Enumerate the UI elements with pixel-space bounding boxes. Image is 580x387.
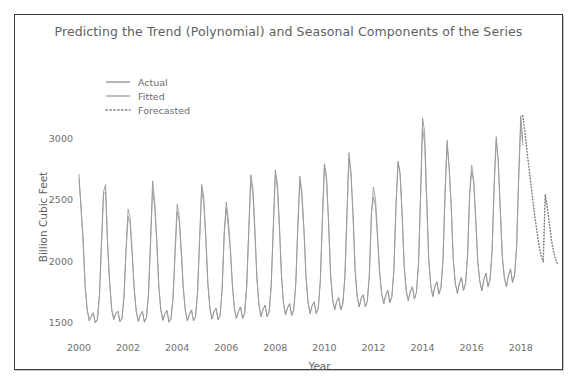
x-tick-label: 2002 [116, 342, 140, 353]
x-axis-ticks: 2000200220042006200820102012201420162018 [79, 342, 560, 358]
legend-line-fitted-icon [105, 91, 131, 101]
x-tick-label: 2010 [312, 342, 336, 353]
x-tick-label: 2012 [361, 342, 385, 353]
series-line-actual [79, 116, 523, 323]
series-line-forecasted [523, 116, 558, 264]
x-tick-label: 2016 [460, 342, 484, 353]
x-tick-label: 2008 [263, 342, 287, 353]
x-axis-label: Year [79, 360, 560, 372]
series-plot [79, 101, 560, 337]
x-tick-label: 2018 [509, 342, 533, 353]
x-tick-label: 2006 [214, 342, 238, 353]
chart-title: Predicting the Trend (Polynomial) and Se… [15, 24, 562, 39]
y-tick-label: 2000 [49, 255, 73, 266]
x-tick-label: 2014 [410, 342, 434, 353]
y-tick-label: 2500 [49, 194, 73, 205]
legend-label-actual: Actual [138, 77, 168, 88]
y-tick-label: 3000 [49, 132, 73, 143]
x-tick-label: 2000 [67, 342, 91, 353]
plot-area [79, 101, 560, 337]
figure-frame: Predicting the Trend (Polynomial) and Se… [14, 14, 563, 370]
series-line-fitted [79, 123, 523, 322]
x-tick-label: 2004 [165, 342, 189, 353]
legend-label-fitted: Fitted [138, 91, 165, 102]
y-axis-label: Billion Cubic Feet [37, 142, 49, 292]
y-tick-label: 1500 [49, 317, 73, 328]
legend-line-actual-icon [105, 77, 131, 87]
legend-item-actual[interactable]: Actual [105, 75, 235, 89]
